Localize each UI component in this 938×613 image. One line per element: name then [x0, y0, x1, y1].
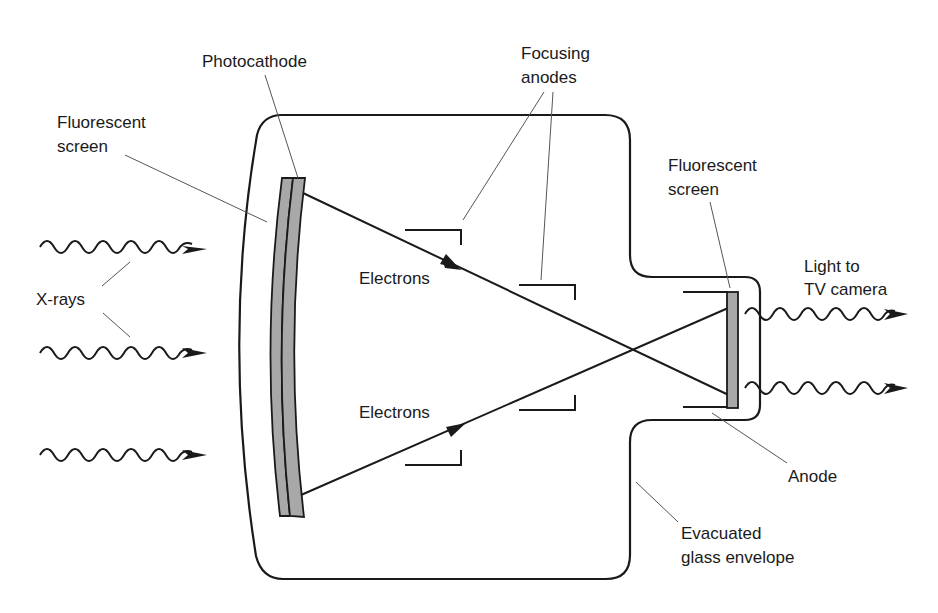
label-input-fluorescent-1: Fluorescent: [57, 112, 146, 133]
xray-wave-1: [40, 241, 192, 253]
electron-paths: [301, 193, 735, 495]
label-output-fluorescent-2: screen: [668, 179, 719, 200]
xray-arrowhead-1-icon: [182, 246, 207, 254]
label-anode: Anode: [788, 466, 837, 487]
light-arrowhead-1-icon: [884, 309, 908, 320]
input-screen-photocathode: [270, 178, 305, 517]
xray-arrowhead-2-icon: [182, 348, 207, 358]
xray-wave-2: [40, 347, 192, 359]
intensifier-diagram: [0, 0, 938, 613]
label-focusing-anodes-2: anodes: [521, 67, 577, 88]
label-envelope-2: glass envelope: [681, 547, 794, 568]
label-photocathode: Photocathode: [202, 51, 307, 72]
label-output-fluorescent-1: Fluorescent: [668, 155, 757, 176]
light-wave-1: [745, 308, 895, 320]
focusing-anodes: [405, 230, 575, 465]
label-light-1: Light to: [804, 256, 860, 277]
label-light-2: TV camera: [804, 279, 887, 300]
xray-arrowhead-3-icon: [182, 450, 207, 460]
label-focusing-anodes-1: Focusing: [521, 43, 590, 64]
label-electrons-bottom: Electrons: [359, 402, 430, 423]
electron-arrow-bottom-icon: [446, 423, 466, 437]
label-input-fluorescent-2: screen: [57, 136, 108, 157]
light-arrowhead-2-icon: [884, 383, 908, 394]
light-wave-2: [745, 382, 895, 394]
xray-inputs: [40, 241, 207, 461]
label-electrons-top: Electrons: [359, 268, 430, 289]
light-outputs: [745, 308, 908, 394]
xray-wave-3: [40, 449, 192, 461]
output-fluorescent-screen: [727, 292, 738, 408]
anode: [683, 292, 728, 407]
label-envelope-1: Evacuated: [681, 523, 761, 544]
label-xrays: X-rays: [36, 289, 85, 310]
